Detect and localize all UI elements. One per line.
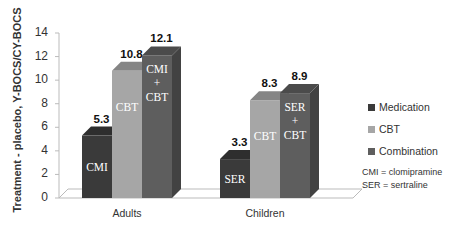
- bar-inner-label: CMI: [86, 161, 108, 173]
- legend-swatch: [368, 104, 375, 111]
- y-tick-label: 0: [26, 190, 48, 204]
- abbr-ser: SER = sertraline: [362, 179, 442, 192]
- y-tick-label: 6: [26, 119, 48, 133]
- legend-item-combination: Combination: [368, 140, 438, 162]
- bar-side: [172, 46, 181, 198]
- bar-inner-label: +: [292, 115, 299, 127]
- legend-swatch: [368, 126, 375, 133]
- legend-item-cbt: CBT: [368, 118, 438, 140]
- value-label: 8.9: [292, 70, 308, 82]
- bar-inner-label: SER: [284, 101, 305, 113]
- value-label: 10.8: [120, 48, 143, 60]
- bar-inner-label: CBT: [254, 130, 276, 142]
- bar-inner-label: +: [154, 77, 161, 89]
- bar-inner-label: CBT: [284, 129, 306, 141]
- bar-side: [310, 84, 319, 198]
- y-tick-label: 4: [26, 143, 48, 157]
- category-label-children: Children: [225, 207, 305, 219]
- bar-chart: Treatment - placebo, Y-BOCS/CY-BOCS 5.3C…: [0, 0, 458, 229]
- legend-item-medication: Medication: [368, 96, 438, 118]
- value-label: 12.1: [150, 32, 173, 44]
- y-tick-label: 12: [26, 49, 48, 63]
- legend-swatch: [368, 148, 375, 155]
- bar-inner-label: CMI: [146, 63, 168, 75]
- bar-inner-label: CBT: [116, 101, 138, 113]
- category-label-adults: Adults: [87, 207, 167, 219]
- legend: Medication CBT Combination: [368, 96, 438, 162]
- y-tick-label: 2: [26, 166, 48, 180]
- bar-inner-label: CBT: [146, 91, 168, 103]
- value-label: 3.3: [232, 136, 248, 148]
- bar-inner-label: SER: [224, 173, 245, 185]
- y-tick-label: 10: [26, 72, 48, 86]
- y-tick-label: 14: [26, 25, 48, 39]
- abbr-cmi: CMI = clomipramine: [362, 166, 442, 179]
- bar-cbt-children: [250, 100, 280, 198]
- value-label: 5.3: [94, 113, 110, 125]
- y-tick-label: 8: [26, 96, 48, 110]
- value-label: 8.3: [262, 77, 278, 89]
- bar-cbt-adults: [112, 71, 142, 198]
- abbreviation-note: CMI = clomipramine SER = sertraline: [362, 166, 442, 192]
